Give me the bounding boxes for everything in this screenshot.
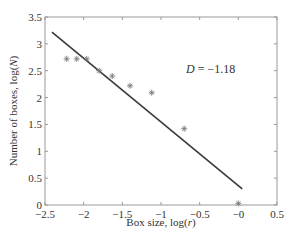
data-point (96, 68, 102, 74)
data-point (181, 126, 187, 132)
svg-text:3.5: 3.5 (28, 11, 42, 23)
slope-annotation: D = −1.18 (185, 62, 235, 76)
data-point (149, 90, 155, 96)
svg-text:0: 0 (37, 199, 43, 211)
data-point (84, 56, 90, 62)
svg-text:1: 1 (37, 145, 43, 157)
axis-ticks: −2.5−2−1.5−1−0.5−00.500.511.522.533.5 (28, 11, 284, 220)
data-point (109, 73, 115, 79)
svg-text:−2: −2 (78, 208, 90, 220)
svg-text:1.5: 1.5 (28, 118, 42, 130)
fractal-dimension-chart: −2.5−2−1.5−1−0.5−00.500.511.522.533.5 D … (0, 0, 297, 241)
plot-frame (45, 17, 277, 205)
data-point (74, 56, 80, 62)
data-point (64, 56, 70, 62)
svg-text:0.5: 0.5 (28, 172, 42, 184)
svg-text:−0: −0 (232, 208, 244, 220)
svg-text:3: 3 (37, 38, 43, 50)
data-point (127, 83, 133, 89)
y-axis-title: Number of boxes, log(N) (7, 55, 20, 166)
svg-text:2.5: 2.5 (28, 65, 42, 77)
svg-text:0.5: 0.5 (270, 208, 284, 220)
fit-line (52, 32, 242, 189)
data-points (64, 56, 242, 206)
svg-text:2: 2 (37, 92, 43, 104)
x-axis-title: Box size, log(r) (126, 216, 196, 229)
